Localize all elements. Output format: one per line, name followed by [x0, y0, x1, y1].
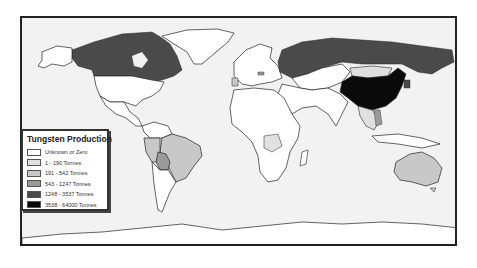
legend-swatch	[27, 170, 41, 177]
legend-label: 1 - 190 Tonnes	[45, 160, 81, 166]
legend-item-5: 3538 - 64000 Tonnes	[27, 200, 103, 211]
region-north-korea[interactable]	[404, 80, 410, 88]
legend-item-3: 543 - 1247 Tonnes	[27, 179, 103, 190]
map-legend: Tungsten Production Unknown or Zero 1 - …	[21, 129, 109, 211]
legend-item-2: 191 - 542 Tonnes	[27, 168, 103, 179]
region-indonesia[interactable]	[372, 134, 440, 148]
legend-item-1: 1 - 190 Tonnes	[27, 158, 103, 169]
region-europe[interactable]	[234, 44, 282, 86]
legend-swatch	[27, 159, 41, 166]
legend-label: 1248 - 3537 Tonnes	[45, 191, 94, 197]
region-antarctica[interactable]	[22, 222, 457, 246]
region-austria[interactable]	[258, 72, 264, 75]
legend-swatch	[27, 191, 41, 198]
region-madagascar[interactable]	[300, 150, 308, 166]
region-tasmania[interactable]	[430, 188, 436, 192]
legend-label: 543 - 1247 Tonnes	[45, 181, 90, 187]
legend-item-unknown: Unknown or Zero	[27, 147, 103, 158]
region-canada[interactable]	[72, 32, 182, 82]
legend-swatch	[27, 180, 41, 187]
region-portugal[interactable]	[232, 78, 238, 86]
legend-title: Tungsten Production	[27, 134, 103, 144]
legend-label: Unknown or Zero	[45, 149, 87, 155]
legend-swatch	[27, 201, 41, 208]
region-australia[interactable]	[394, 152, 442, 186]
legend-swatch	[27, 149, 41, 156]
legend-label: 191 - 542 Tonnes	[45, 170, 87, 176]
legend-label: 3538 - 64000 Tonnes	[45, 202, 97, 208]
region-alaska[interactable]	[38, 46, 72, 68]
legend-item-4: 1248 - 3537 Tonnes	[27, 189, 103, 200]
